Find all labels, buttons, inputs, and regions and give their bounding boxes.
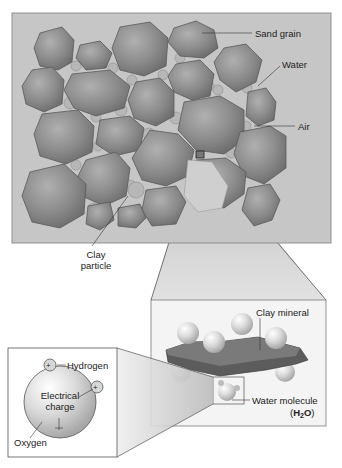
zoom-marker bbox=[196, 151, 204, 158]
label-water-molecule: Water molecule bbox=[252, 395, 318, 406]
label-clay-mineral: Clay mineral bbox=[256, 307, 309, 318]
label-air: Air bbox=[298, 121, 310, 132]
label-sand-grain: Sand grain bbox=[255, 28, 301, 39]
label-electrical-line1: Electrical bbox=[36, 390, 84, 401]
label-hydrogen: Hydrogen bbox=[67, 360, 108, 371]
label-electrical-line2: charge bbox=[36, 401, 84, 412]
label-water: Water bbox=[282, 59, 307, 70]
plus-sign-1: + bbox=[46, 360, 51, 371]
formula-close: ) bbox=[311, 407, 314, 418]
label-electrical-charge: Electrical charge bbox=[36, 390, 84, 412]
label-clay-particle-line1: Clay bbox=[76, 249, 116, 260]
label-oxygen: Oxygen bbox=[14, 437, 47, 448]
label-clay-particle: Clay particle bbox=[76, 249, 116, 271]
plus-sign-2: + bbox=[93, 382, 98, 393]
soil-panel bbox=[12, 13, 331, 246]
label-formula-h2o: (H2O) bbox=[290, 407, 315, 421]
label-clay-particle-line2: particle bbox=[76, 260, 116, 271]
